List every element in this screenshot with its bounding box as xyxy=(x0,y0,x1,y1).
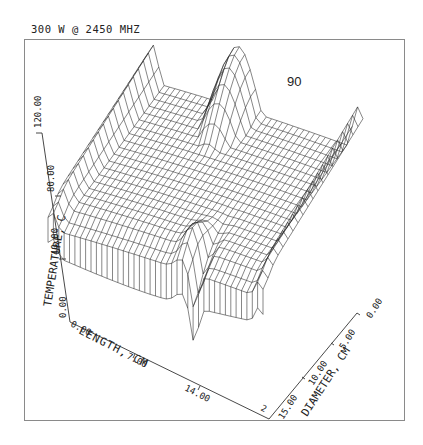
z-axis: 120.00 80.00 40.00 0.00 TEMPERATURE, C xyxy=(33,95,70,322)
mesh-line-length xyxy=(150,70,250,260)
z-tick-120: 120.00 xyxy=(33,95,43,128)
mesh-line-length xyxy=(172,119,272,264)
mesh-line-length xyxy=(252,126,352,291)
plot-caption: 300 W @ 2450 MHZ xyxy=(31,23,140,35)
mesh-line-length xyxy=(70,87,170,235)
mesh-line-length xyxy=(166,117,266,264)
mesh-line-length xyxy=(193,126,293,307)
chart-figure: 300 W @ 2450 MHZ 90 120.00 80.00 40.00 0… xyxy=(0,0,423,445)
y-axis: 0.00 5.00 10.00 15.00 DIAMETER, CM xyxy=(269,296,384,421)
surface-plot: 300 W @ 2450 MHZ 90 120.00 80.00 40.00 0… xyxy=(0,0,423,445)
mesh-line-length xyxy=(86,92,186,240)
mesh-line-length xyxy=(96,95,196,243)
x-tick-14: 14.00 xyxy=(183,383,212,404)
x-axis: 0.00 7.00 14.00 2 LENGTH, CM xyxy=(69,319,269,419)
mesh-line-length xyxy=(113,100,213,248)
y-tick-0: 0.00 xyxy=(364,296,384,320)
annotation-label: 90 xyxy=(287,74,301,89)
x-tick-partial: 2 xyxy=(259,403,268,414)
wireframe-surface xyxy=(48,45,363,340)
mesh-line-length xyxy=(80,90,180,238)
x-axis-title: LENGTH, CM xyxy=(77,324,151,370)
mesh-line-length xyxy=(75,89,175,237)
mesh-line-length xyxy=(263,119,363,290)
y-tick-15: 15.00 xyxy=(276,393,299,421)
mesh-line-diameter xyxy=(53,202,268,293)
mesh-line-length xyxy=(91,93,191,241)
plot-frame xyxy=(25,40,405,421)
mesh-line-diameter xyxy=(58,189,273,274)
z-tick-0: 0.00 xyxy=(58,296,68,318)
mesh-line-length xyxy=(102,97,202,245)
mesh-line-length xyxy=(199,128,299,294)
z-tick-80: 80.00 xyxy=(46,165,56,192)
mesh-line-length xyxy=(177,121,277,260)
